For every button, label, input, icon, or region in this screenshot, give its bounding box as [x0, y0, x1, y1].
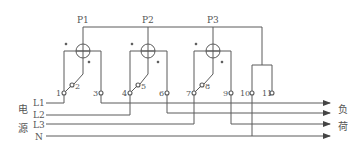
meter-label-p1: P1: [77, 15, 89, 25]
source-label-2: 源: [18, 122, 28, 134]
load-label-2: 荷: [338, 121, 348, 132]
load-label-1: 负: [338, 103, 348, 115]
line-label-l1: L1: [33, 98, 45, 108]
terminal-5: 5: [141, 82, 146, 91]
terminal-6: 6: [159, 89, 164, 98]
source-label-1: 电: [18, 103, 28, 115]
line-label-l3: L3: [33, 120, 45, 130]
terminal-4: 4: [122, 89, 127, 98]
terminal-3: 3: [93, 89, 98, 98]
meter-label-p2: P2: [142, 15, 154, 25]
line-label-l2: L2: [33, 110, 45, 120]
line-label-n: N: [35, 132, 43, 142]
terminal-11: 11: [262, 89, 272, 98]
terminal-10: 10: [240, 89, 250, 98]
meter-label-p3: P3: [207, 15, 219, 25]
terminal-1: 1: [56, 89, 61, 98]
circuit-diagram: P1 P2 P3 1 2 3 4 5 6 7 8 9 10 11 L1 L2 L…: [0, 0, 364, 150]
terminal-8: 8: [205, 82, 210, 91]
terminal-7: 7: [186, 89, 191, 98]
terminal-2: 2: [75, 82, 80, 91]
terminal-9: 9: [223, 89, 228, 98]
